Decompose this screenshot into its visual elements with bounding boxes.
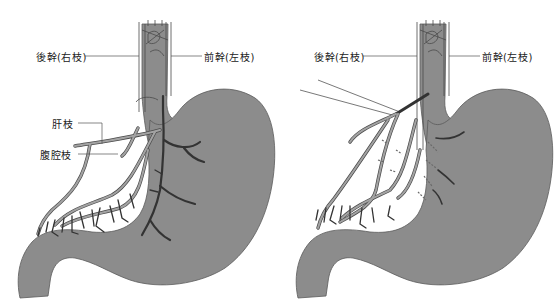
label-hepatic-branch: 肝枝 xyxy=(52,116,73,131)
label-celiac-branch: 腹腔枝 xyxy=(40,147,72,162)
label-anterior-trunk: 前幹(左枝) xyxy=(482,49,533,64)
stomach-vagus-illustration-right xyxy=(278,0,556,303)
label-posterior-trunk: 後幹(右枝) xyxy=(36,49,87,64)
right-panel-diagram: 後幹(右枝) 前幹(左枝) xyxy=(278,0,556,303)
label-posterior-trunk: 後幹(右枝) xyxy=(314,49,365,64)
left-panel-diagram: 後幹(右枝) 前幹(左枝) 肝枝 腹腔枝 xyxy=(0,0,278,303)
label-anterior-trunk: 前幹(左枝) xyxy=(204,49,255,64)
